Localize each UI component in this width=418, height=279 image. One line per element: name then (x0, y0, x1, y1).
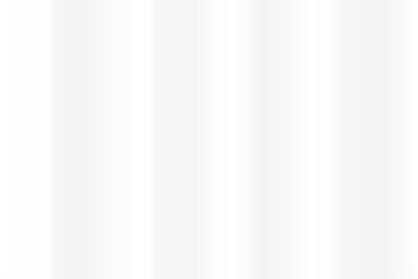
category-label-line: COVID–19 (210, 232, 282, 241)
category-label-line: Deaths from all (8, 232, 86, 241)
category-label-line: Influenza (344, 232, 414, 241)
category-label: Influenza deaths^ (344, 232, 414, 250)
category-label: Pneumonia deaths** (144, 232, 218, 250)
category-label-line: COVID–19* (76, 260, 152, 269)
category-label-line: deaths^ (344, 241, 414, 250)
x-axis-category-labels: Deaths from all causes Deaths with pneum… (0, 232, 418, 279)
category-label: Deaths with pneumonia and COVID–19** (273, 232, 353, 260)
bar-value-label: 6 158 (339, 214, 417, 223)
bar (287, 221, 337, 227)
category-label: Deaths with pneumonia, influenza, or COV… (76, 232, 152, 269)
bar-value-label: 857 948 (8, 26, 86, 35)
bar (88, 200, 138, 227)
category-label-line: Pneumonia (144, 232, 218, 241)
category-label-line: deaths*** (210, 241, 282, 250)
category-label-line: Deaths with (76, 232, 152, 241)
bar-value-label: 120 370 (74, 189, 152, 198)
category-label-line: causes (8, 241, 86, 250)
bar-chart-figure: 857 948 120 370 81 318 60 299 26 516 6 1… (0, 0, 418, 279)
bar (155, 209, 205, 227)
category-label-line: deaths** (144, 241, 218, 250)
bar (353, 225, 403, 227)
category-label-line: pneumonia and (273, 241, 353, 250)
category-label-line: COVID–19** (273, 250, 353, 259)
bar-series: 857 948 120 370 81 318 60 299 26 516 6 1… (0, 0, 418, 229)
bar (22, 37, 72, 227)
bar (220, 214, 270, 227)
category-label: COVID–19 deaths*** (210, 232, 282, 250)
category-label-line: Deaths with (273, 232, 353, 241)
category-label-line: influenza, or (76, 250, 152, 259)
category-label: Deaths from all causes (8, 232, 86, 250)
category-label-line: pneumonia, (76, 241, 152, 250)
